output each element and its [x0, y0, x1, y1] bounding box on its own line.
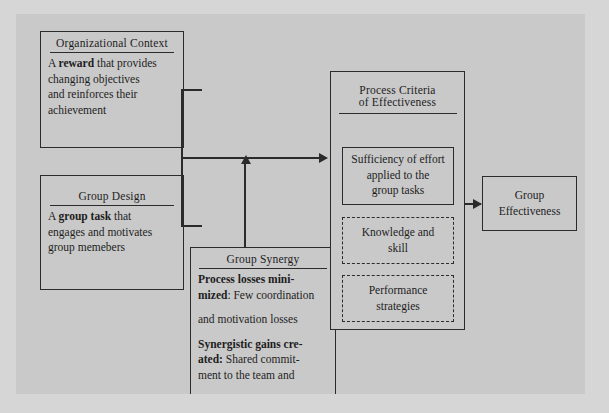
pf-line1: Performance — [350, 283, 446, 299]
gs-p3-bold: Synergistic gains cre- — [198, 338, 303, 350]
suf-line3: group tasks — [350, 183, 446, 199]
kn-line2: skill — [350, 241, 446, 257]
pf-line2: strategies — [350, 299, 446, 315]
oc-line3: and reinforces their — [48, 87, 176, 103]
connector-main-horizontal — [181, 157, 321, 159]
box-group-design: Group Design A group task that engages a… — [40, 175, 184, 290]
process-criteria-heading-line2: of Effectiveness — [331, 96, 464, 110]
knowledge-body: Knowledge and skill — [343, 218, 453, 256]
box-process-criteria: Process Criteria of Effectiveness Suffic… — [330, 71, 465, 330]
arrowhead-to-process-criteria — [319, 153, 328, 163]
organizational-context-body: A reward that provides changing objectiv… — [41, 56, 183, 118]
group-design-rule — [50, 205, 174, 206]
connector-design-stub — [184, 225, 202, 227]
group-synergy-body: Process losses mini- mized: Few coordina… — [191, 272, 335, 383]
gd-line1-pre: A — [48, 210, 59, 222]
connector-org-stub — [184, 89, 202, 91]
gs-p3-bold2: ated: — [198, 353, 223, 365]
ge-line2: Effectiveness — [490, 204, 569, 220]
process-criteria-rule — [339, 113, 457, 114]
ge-line1: Group — [490, 188, 569, 204]
group-synergy-rule — [199, 268, 327, 269]
process-criteria-heading-line1: Process Criteria — [331, 72, 464, 96]
oc-line1-bold: reward — [59, 57, 95, 69]
oc-line1-post: that provides — [94, 57, 157, 69]
group-effectiveness-body: Group Effectiveness — [483, 177, 576, 219]
organizational-context-heading: Organizational Context — [41, 32, 183, 51]
suf-line1: Sufficiency of effort — [350, 152, 446, 168]
sufficiency-body: Sufficiency of effort applied to the gro… — [343, 148, 453, 199]
box-organizational-context: Organizational Context A reward that pro… — [40, 31, 184, 148]
box-group-synergy: Group Synergy Process losses mini- mized… — [190, 247, 336, 394]
box-sufficiency-of-effort: Sufficiency of effort applied to the gro… — [342, 147, 454, 205]
oc-line1-pre: A — [48, 57, 59, 69]
performance-body: Performance strategies — [343, 276, 453, 314]
gs-p1-post: : Few coordination — [227, 289, 314, 301]
gs-p1-bold2: mized — [198, 289, 227, 301]
group-synergy-heading: Group Synergy — [191, 248, 335, 267]
gs-p3-post: Shared commit- — [223, 353, 300, 365]
kn-line1: Knowledge and — [350, 225, 446, 241]
gd-line3: group memebers — [48, 240, 176, 256]
box-group-effectiveness: Group Effectiveness — [482, 176, 577, 231]
gd-line1-bold: group task — [59, 210, 112, 222]
oc-line2: changing objectives — [48, 72, 176, 88]
box-performance-strategies: Performance strategies — [342, 275, 454, 322]
gs-p1-bold: Process losses mini- — [198, 273, 294, 285]
group-design-body: A group task that engages and motivates … — [41, 209, 183, 256]
oc-line4: achievement — [48, 103, 176, 119]
gd-line2: engages and motivates — [48, 225, 176, 241]
box-knowledge-and-skill: Knowledge and skill — [342, 217, 454, 264]
diagram-page: Organizational Context A reward that pro… — [0, 0, 609, 413]
organizational-context-rule — [50, 52, 174, 53]
suf-line2: applied to the — [350, 168, 446, 184]
gs-p2: and motivation losses — [198, 312, 328, 328]
diagram-panel: Organizational Context A reward that pro… — [16, 14, 585, 394]
connector-synergy-vertical — [244, 162, 246, 248]
gs-p4: ment to the team and — [198, 368, 328, 384]
arrowhead-to-effectiveness — [473, 199, 482, 209]
group-design-heading: Group Design — [41, 176, 183, 204]
arrowhead-synergy-up — [241, 155, 251, 164]
gd-line1-post: that — [111, 210, 131, 222]
